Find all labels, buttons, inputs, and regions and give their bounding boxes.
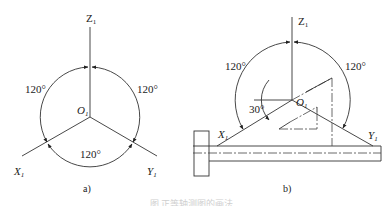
angle-label-bottom: 120° (80, 148, 101, 160)
isometric-axes-figure: Z1 X1 Y1 O1 120° 120° 120° a) (0, 0, 391, 206)
panel-b: Z1 X1 Y1 O1 120° 120° 30° b) (193, 15, 381, 195)
inner-triangle-left (279, 122, 290, 129)
angle-arc-left (235, 42, 290, 129)
angle-label-right: 120° (345, 60, 366, 72)
figure-caption: 图 正等轴测图的画法 (150, 198, 233, 206)
panel-a-caption: a) (83, 183, 91, 195)
angle-label-right: 120° (137, 83, 158, 95)
origin-label: O1 (77, 104, 88, 118)
end-block (194, 131, 209, 176)
angle-arc-right (294, 42, 350, 128)
angle-label-left: 120° (25, 83, 46, 95)
panel-b-caption: b) (283, 183, 291, 195)
angle-label-left: 120° (225, 60, 246, 72)
x-axis-label: X1 (13, 165, 24, 179)
angle-arc-right (92, 67, 140, 142)
origin-label: O1 (296, 96, 307, 110)
z-axis-label: Z1 (86, 12, 97, 26)
angle-label-30: 30° (249, 103, 264, 115)
y-axis-label: Y1 (147, 165, 157, 179)
y-axis-label: Y1 (368, 129, 378, 143)
panel-a: Z1 X1 Y1 O1 120° 120° 120° a) (13, 12, 158, 195)
z-axis-label: Z1 (298, 15, 309, 29)
triangle-upper-edge (306, 78, 332, 92)
x-axis-label: X1 (217, 128, 228, 142)
